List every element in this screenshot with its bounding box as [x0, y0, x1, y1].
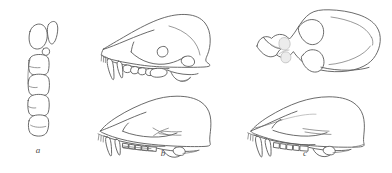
tooth-molar-3: [28, 94, 49, 116]
nasal-vacuity-upper: [279, 38, 290, 50]
canine-2-lower-skull: [115, 139, 120, 155]
cheek-tooth-3-panel-c: [287, 145, 293, 150]
cheek-tooth-2-panel-c: [280, 144, 286, 150]
panel-label-b: b: [153, 148, 173, 158]
tooth-molar-1: [29, 54, 50, 75]
cheek-tooth-3-upper: [138, 68, 146, 75]
canine-lower-skull: [106, 137, 112, 156]
dorsal-lateral-skull-drawing: [243, 0, 392, 173]
panel-a-tooth-row: a: [0, 0, 90, 173]
tooth-small-round: [42, 48, 49, 55]
skull-dorsal-view: [257, 10, 380, 72]
auditory-bulla-upper: [157, 46, 168, 57]
figure-plate: a: [0, 0, 392, 173]
carnassial-upper: [150, 68, 167, 77]
zygomatic-wing-lower-dorsal: [301, 50, 324, 72]
cheek-tooth-1-lower: [123, 143, 129, 148]
panel-label-c: c: [295, 148, 315, 158]
nasal-vacuity-lower: [281, 52, 291, 63]
cheek-tooth-1-panel-c: [274, 143, 280, 149]
tooth-large-anterior: [29, 24, 47, 49]
premolar-1-upper: [117, 61, 123, 78]
panel-c-dorsal-lateral-skull: c: [243, 0, 392, 173]
condyle-panel-c: [323, 146, 335, 155]
occipital-condyle-upper: [181, 56, 194, 66]
tooth-anterior-offset: [47, 21, 57, 43]
tooth-molar-2: [28, 74, 49, 96]
panel-b-lateral-skulls: b: [95, 0, 245, 173]
panel-label-a: a: [28, 145, 48, 155]
canine-2-panel-c: [265, 139, 271, 157]
canine-1-panel-c: [256, 136, 263, 157]
skull-lateral-upper: [101, 14, 210, 81]
condyle-lower-skull: [173, 147, 185, 156]
